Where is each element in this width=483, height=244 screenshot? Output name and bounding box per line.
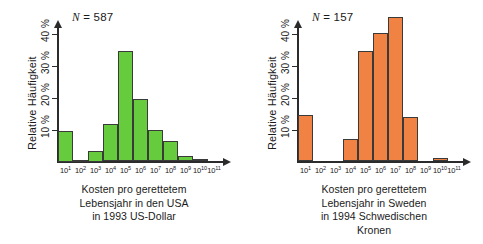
sample-size-label-usa: N = 587 [72, 11, 113, 23]
x-tick-label-usa-9: 1010 [193, 166, 207, 175]
bar-sweden-0 [298, 115, 313, 161]
y-tick-label-30-usa: 30 % [40, 51, 51, 74]
x-tick-label-usa-4: 105 [120, 166, 131, 175]
x-tick-label-sweden-5: 106 [375, 166, 386, 175]
y-axis-title-sweden: Relative Häufigkeit [266, 56, 278, 150]
figure-root: N = 587 Relative Häufigkeit 10 % 20 % 30… [0, 0, 483, 244]
bar-sweden-5 [373, 33, 388, 162]
x-tick-label-sweden-10: 1011 [447, 166, 461, 175]
bar-usa-5 [133, 99, 148, 161]
x-tick-label-usa-5: 106 [135, 166, 146, 175]
y-tick-20-sweden [292, 98, 297, 100]
y-tick-label-20-sweden: 20 % [280, 83, 291, 106]
y-tick-label-20-usa: 20 % [40, 83, 51, 106]
caption-usa: Kosten pro gerettetem Lebensjahr in den … [34, 183, 234, 224]
x-tick-label-sweden-2: 103 [330, 166, 341, 175]
caption-sweden-line2: Lebensjahr in Sweden [274, 197, 474, 211]
caption-sweden-line1: Kosten pro gerettetem [274, 183, 474, 197]
y-tick-label-10-usa: 10 % [40, 115, 51, 138]
x-tick-label-sweden-1: 102 [315, 166, 326, 175]
y-tick-label-40-usa: 40 % [40, 19, 51, 42]
x-tick-label-usa-6: 107 [150, 166, 161, 175]
x-tick-label-sweden-6: 107 [390, 166, 401, 175]
bar-sweden-3 [343, 139, 358, 161]
x-tick-label-usa-3: 104 [105, 166, 116, 175]
bar-sweden-4 [358, 51, 373, 162]
sample-size-label-sweden: N = 157 [312, 11, 353, 23]
bar-usa-7 [163, 141, 178, 162]
caption-usa-line1: Kosten pro gerettetem [34, 183, 234, 197]
caption-sweden-line3: in 1994 Schwedischen [274, 210, 474, 224]
caption-usa-line3: in 1993 US-Dollar [34, 210, 234, 224]
y-tick-30-usa [52, 66, 57, 68]
x-tick-label-sweden-7: 108 [405, 166, 416, 175]
y-tick-10-sweden [292, 130, 297, 132]
x-tick-label-usa-8: 109 [180, 166, 191, 175]
y-tick-label-40-sweden: 40 % [280, 19, 291, 42]
bar-usa-1 [73, 160, 88, 162]
y-tick-40-sweden [292, 34, 297, 36]
bar-sweden-9 [433, 158, 448, 162]
y-tick-label-10-sweden: 10 % [280, 115, 291, 138]
bar-usa-2 [88, 151, 103, 162]
caption-sweden-line4: Kronen [274, 224, 474, 238]
y-tick-20-usa [52, 98, 57, 100]
y-tick-30-sweden [292, 66, 297, 68]
x-tick-label-usa-10: 1011 [207, 166, 221, 175]
bar-usa-6 [148, 130, 163, 162]
x-tick-label-sweden-8: 109 [420, 166, 431, 175]
x-axis-arrow-sweden [463, 158, 471, 166]
bar-usa-9 [193, 159, 208, 161]
bar-sweden-7 [403, 117, 418, 161]
y-axis-title-usa: Relative Häufigkeit [26, 56, 38, 150]
bar-usa-3 [103, 124, 118, 161]
x-axis-arrow-usa [223, 158, 231, 166]
caption-sweden: Kosten pro gerettetem Lebensjahr in Swed… [274, 183, 474, 237]
y-axis-arrow-usa [54, 20, 62, 28]
y-tick-40-usa [52, 34, 57, 36]
y-tick-10-usa [52, 130, 57, 132]
y-tick-label-30-sweden: 30 % [280, 51, 291, 74]
x-tick-label-sweden-4: 105 [360, 166, 371, 175]
x-tick-label-usa-0: 101 [60, 166, 71, 175]
bar-usa-4 [118, 51, 133, 162]
x-tick-label-usa-2: 103 [90, 166, 101, 175]
x-tick-label-sweden-9: 1010 [433, 166, 447, 175]
y-axis-arrow-sweden [294, 20, 302, 28]
bar-sweden-6 [388, 17, 403, 162]
bar-usa-8 [178, 156, 193, 162]
caption-usa-line2: Lebensjahr in den USA [34, 197, 234, 211]
x-tick-label-usa-7: 108 [165, 166, 176, 175]
bar-usa-0 [58, 131, 73, 162]
chart-panel-usa: N = 587 Relative Häufigkeit 10 % 20 % 30… [0, 0, 241, 244]
x-tick-label-sweden-0: 101 [300, 166, 311, 175]
x-tick-label-usa-1: 102 [75, 166, 86, 175]
chart-panel-sweden: N = 157 Relative Häufigkeit 10 % 20 % 30… [242, 0, 483, 244]
x-tick-label-sweden-3: 104 [345, 166, 356, 175]
